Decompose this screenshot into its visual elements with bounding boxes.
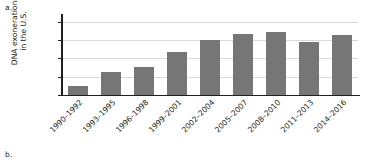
y-axis-tick	[58, 77, 62, 78]
bar-slot	[62, 17, 95, 95]
y-axis-tick	[58, 58, 62, 59]
bar	[332, 35, 352, 95]
bar	[266, 32, 286, 95]
x-axis-tick-labels: 1990–19921993–19951996–19981999–20012002…	[62, 96, 358, 158]
y-axis-title-line2: in the U.S.	[20, 11, 29, 50]
bar	[101, 72, 121, 95]
plot-area	[62, 17, 358, 95]
bar-slot	[325, 17, 358, 95]
bar-slot	[161, 17, 194, 95]
bar-slot	[259, 17, 292, 95]
panel-label-b: b.	[5, 150, 13, 159]
y-axis-tick	[58, 40, 62, 41]
bar-slot	[194, 17, 227, 95]
x-label-slot: 2014–2016	[325, 96, 358, 158]
bar-slot	[292, 17, 325, 95]
figure-panel-a: a. DNA exonerations in the U.S. 02040608…	[0, 0, 365, 167]
bar	[200, 40, 220, 95]
bar	[299, 42, 319, 95]
bar	[233, 34, 253, 95]
bar	[134, 67, 154, 95]
bar-slot	[226, 17, 259, 95]
bar	[167, 52, 187, 95]
bar-series	[62, 17, 358, 95]
y-axis-title: DNA exonerations in the U.S.	[7, 0, 33, 79]
bar-slot	[128, 17, 161, 95]
bar	[68, 86, 88, 95]
bar-slot	[95, 17, 128, 95]
x-axis-tick-label: 1990–1992	[48, 98, 84, 134]
y-axis-tick	[58, 22, 62, 23]
